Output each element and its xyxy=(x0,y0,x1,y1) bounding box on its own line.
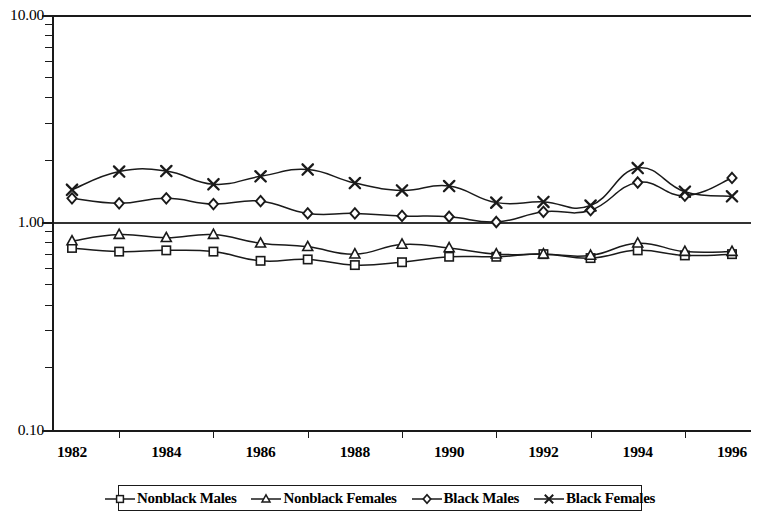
square-marker-icon xyxy=(105,492,135,505)
gridline-1.00 xyxy=(52,222,751,224)
data-point-square xyxy=(351,261,359,269)
legend-item-nonblack-females[interactable]: Nonblack Females xyxy=(251,491,396,506)
series-line xyxy=(72,248,732,265)
data-point-square xyxy=(162,246,170,254)
data-point-square xyxy=(492,253,500,261)
data-point-square xyxy=(634,246,642,254)
data-point-diamond xyxy=(397,211,406,221)
x-axis-tick xyxy=(213,430,214,438)
data-point-triangle xyxy=(444,243,454,252)
data-point-cross xyxy=(444,181,454,191)
series-plot-layer xyxy=(0,0,757,515)
y-axis-tick xyxy=(45,242,52,243)
data-point-triangle xyxy=(397,239,407,248)
data-point-triangle xyxy=(586,250,596,259)
cross-marker-icon xyxy=(534,492,564,505)
y-axis-tick xyxy=(45,330,52,331)
data-point-square xyxy=(445,253,453,261)
series-nonblack-females xyxy=(67,229,737,259)
data-point-cross xyxy=(255,171,265,181)
x-axis-tick xyxy=(591,430,592,438)
y-axis-label-middle: 1.00 xyxy=(0,214,44,230)
data-point-triangle xyxy=(491,249,501,258)
legend-item-black-females[interactable]: Black Females xyxy=(534,491,655,506)
y-axis-tick xyxy=(45,305,52,306)
data-point-diamond xyxy=(586,205,595,215)
data-point-square xyxy=(115,247,123,255)
y-axis-tick xyxy=(45,268,52,269)
data-point-cross xyxy=(350,178,360,188)
legend-item-label: Nonblack Females xyxy=(283,491,396,506)
y-axis-tick xyxy=(45,97,52,98)
data-point-triangle xyxy=(680,246,690,255)
y-axis-tick xyxy=(45,61,52,62)
x-axis-tick xyxy=(496,430,497,438)
data-point-triangle xyxy=(538,249,548,258)
diamond-marker-icon xyxy=(412,492,442,505)
data-point-diamond xyxy=(256,196,265,206)
series-nonblack-males xyxy=(68,244,736,270)
data-point-square xyxy=(681,251,689,259)
data-point-square xyxy=(68,244,76,252)
data-point-cross xyxy=(67,185,77,195)
x-axis-label: 1990 xyxy=(419,443,479,460)
data-point-square xyxy=(304,255,312,263)
legend-item-label: Black Females xyxy=(566,491,655,506)
data-point-cross xyxy=(161,166,171,176)
y-axis-tick xyxy=(42,222,52,224)
y-axis-tick xyxy=(45,77,52,78)
data-point-triangle xyxy=(67,236,77,245)
data-point-cross xyxy=(585,200,595,210)
y-axis-tick xyxy=(45,367,52,368)
data-point-cross xyxy=(303,164,313,174)
legend-item-label: Black Males xyxy=(444,491,519,506)
data-point-square xyxy=(256,257,264,265)
y-axis-tick xyxy=(45,24,52,25)
x-axis-tick xyxy=(402,430,403,438)
y-axis-tick xyxy=(45,160,52,161)
y-axis-tick xyxy=(45,254,52,255)
data-point-triangle xyxy=(303,241,313,250)
y-axis-tick xyxy=(45,231,52,232)
data-point-diamond xyxy=(162,193,171,203)
y-axis-tick xyxy=(45,123,52,124)
series-line xyxy=(72,234,732,256)
data-point-diamond xyxy=(350,208,359,218)
legend-item-label: Nonblack Males xyxy=(137,491,237,506)
data-point-diamond xyxy=(680,190,689,200)
data-point-diamond xyxy=(209,199,218,209)
data-point-square xyxy=(398,258,406,266)
series-line xyxy=(72,178,732,222)
y-axis-tick xyxy=(42,430,52,432)
x-axis-label: 1994 xyxy=(608,443,668,460)
chart-top-border xyxy=(52,15,751,17)
data-point-diamond xyxy=(727,173,736,183)
series-black-females xyxy=(67,163,737,211)
x-axis-tick xyxy=(119,430,120,438)
legend-item-black-males[interactable]: Black Males xyxy=(412,491,519,506)
data-point-diamond xyxy=(303,208,312,218)
data-point-triangle xyxy=(350,249,360,258)
y-axis-tick xyxy=(45,35,52,36)
x-axis-label: 1996 xyxy=(702,443,757,460)
data-point-cross xyxy=(208,179,218,189)
x-axis-tick xyxy=(308,430,309,438)
data-point-diamond xyxy=(67,193,76,203)
data-point-triangle xyxy=(727,246,737,255)
series-line xyxy=(72,168,732,209)
y-axis-tick xyxy=(45,284,52,285)
y-axis-tick xyxy=(45,47,52,48)
legend-item-nonblack-males[interactable]: Nonblack Males xyxy=(105,491,237,506)
data-point-cross xyxy=(397,185,407,195)
triangle-marker-icon xyxy=(251,492,281,505)
chart-container: 10.00 1.00 0.10 198219841986198819901992… xyxy=(0,0,757,515)
data-point-square xyxy=(586,254,594,262)
data-point-square xyxy=(728,250,736,258)
x-axis-label: 1986 xyxy=(231,443,291,460)
data-point-diamond xyxy=(445,212,454,222)
data-point-cross xyxy=(727,191,737,201)
data-point-square xyxy=(209,247,217,255)
y-axis-label-bottom: 0.10 xyxy=(0,422,44,438)
data-point-cross xyxy=(491,197,501,207)
data-point-triangle xyxy=(633,238,643,247)
